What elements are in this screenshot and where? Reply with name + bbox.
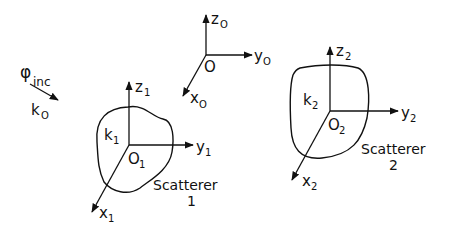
k1-subscript: 1: [113, 135, 119, 146]
o1-subscript: 1: [139, 159, 145, 170]
y0-label: y: [254, 47, 263, 65]
z1-label: z: [135, 78, 143, 96]
o2-subscript: 2: [339, 125, 345, 136]
z2-subscript: 2: [345, 51, 351, 62]
multiple-scattering-diagram: φ inc k O z O y O O x O z 1 y 1 k 1 O 1 …: [0, 0, 451, 234]
x2-subscript: 2: [311, 181, 317, 192]
scatterer-1-number: 1: [187, 193, 196, 209]
scatterer-2-name: Scatterer: [361, 141, 426, 157]
y1-subscript: 1: [205, 147, 211, 158]
z0-label: z: [211, 10, 219, 28]
global-frame: z O y O O x O: [183, 10, 271, 110]
k2-label: k: [303, 91, 312, 109]
x0-label: x: [190, 89, 199, 107]
y1-label: y: [196, 138, 205, 156]
incident-wave: φ inc k O: [20, 62, 58, 121]
scatterer-1-name: Scatterer: [153, 177, 218, 193]
origin-o-label: O: [204, 58, 216, 76]
phi-symbol: φ: [20, 62, 31, 82]
y0-subscript: O: [263, 56, 271, 67]
x0-subscript: O: [199, 99, 207, 110]
k1-label: k: [104, 126, 113, 144]
k0-subscript: O: [41, 110, 49, 121]
y2-label: y: [401, 104, 410, 122]
k2-subscript: 2: [312, 100, 318, 111]
z1-subscript: 1: [144, 87, 150, 98]
x2-label: x: [302, 172, 311, 190]
x2-axis-icon: [292, 111, 330, 180]
k0-label: k: [31, 101, 40, 119]
x1-label: x: [99, 204, 108, 222]
scatterer-2-number: 2: [389, 157, 398, 173]
scatterer-2: z 2 y 2 k 2 O 2 x 2 Scatterer 2: [290, 42, 426, 192]
z0-subscript: O: [220, 19, 228, 30]
x1-subscript: 1: [108, 213, 114, 224]
y2-subscript: 2: [410, 113, 416, 124]
z2-label: z: [336, 42, 344, 60]
